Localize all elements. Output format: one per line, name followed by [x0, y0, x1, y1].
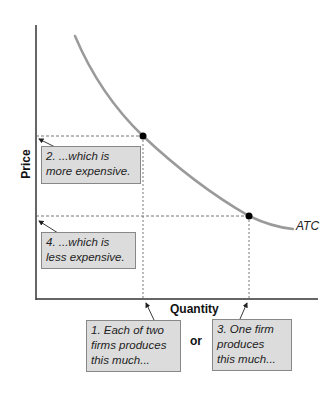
callout-more-expensive: 2. ...which is more expensive.	[41, 146, 141, 184]
atc-diagram: Price Quantity ATC 2. ...which is more e…	[0, 0, 336, 393]
or-connector: or	[190, 334, 202, 348]
y-axis-label: Price	[19, 146, 33, 182]
atc-curve	[75, 36, 293, 229]
callout-line: this much...	[217, 352, 287, 367]
callout-line: 3. One firm	[217, 322, 287, 337]
callout-two-firms: 1. Each of two firms produces this much.…	[86, 320, 181, 372]
x-axis-label: Quantity	[170, 302, 219, 316]
callout-line: 2. ...which is	[46, 149, 136, 164]
callout-line: this much...	[91, 353, 176, 368]
arrow-box1	[146, 303, 154, 320]
callout-less-expensive: 4. ...which is less expensive.	[41, 232, 136, 269]
atc-label: ATC	[296, 219, 319, 233]
callout-line: 4. ...which is	[46, 235, 131, 250]
point-two-firms	[140, 133, 147, 140]
callout-line: 1. Each of two	[91, 323, 176, 338]
point-one-firm	[246, 213, 253, 220]
callout-line: firms produces	[91, 338, 176, 353]
callout-line: produces	[217, 337, 287, 352]
callout-line: less expensive.	[46, 250, 131, 265]
callout-line: more expensive.	[46, 164, 136, 179]
callout-one-firm: 3. One firm produces this much...	[212, 319, 292, 371]
arrow-box3	[240, 303, 247, 319]
